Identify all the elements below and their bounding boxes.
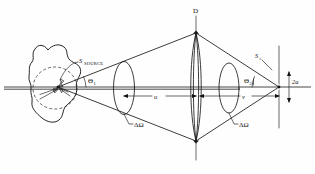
optics-diagram-canvas: S SOURCE Θ 1 ΔΩ (0, 0, 315, 174)
image-size-arrowhead-bottom (287, 98, 291, 103)
solid-angle-right-label: ΔΩ (239, 121, 249, 129)
image-distance-group: v (199, 93, 280, 100)
image-point-marker (278, 86, 281, 89)
solid-angle-left-group: ΔΩ (124, 114, 144, 129)
theta1-arc (84, 77, 87, 88)
detector-plane-group (278, 46, 281, 128)
source-label-subscript: SOURCE (84, 61, 103, 66)
solid-angle-left-label: ΔΩ (134, 121, 144, 129)
image-distance-label: v (242, 93, 245, 100)
aperture-element-2-group (219, 63, 239, 113)
aperture-element-1 (114, 62, 135, 115)
source-label-group: S SOURCE (60, 57, 103, 84)
source-object-outline (29, 45, 81, 122)
theta1-label-subscript: 1 (94, 81, 96, 86)
theta2-label-main: Θ (244, 77, 249, 85)
source-object-group (29, 45, 81, 122)
image-size-label: 2a (292, 78, 298, 85)
optical-axis-group (4, 87, 311, 89)
image-label-main: S (255, 52, 259, 59)
image-label-group: S i (255, 52, 272, 70)
source-arrowhead-lower-left-2 (53, 89, 57, 92)
aperture-D-label: D (193, 7, 198, 15)
source-arrow-lower-left-2 (40, 90, 57, 99)
theta2-label-subscript: 2 (250, 81, 252, 86)
image-label-leader (262, 60, 272, 70)
source-label-leader (60, 62, 78, 80)
object-distance-arrowhead-right (192, 94, 197, 98)
source-label-main: S (79, 57, 83, 64)
theta1-group: Θ 1 (84, 77, 96, 88)
aperture-element-2 (219, 63, 239, 113)
ray-converging-lower (196, 87, 279, 141)
object-distance-arrowhead-left (123, 94, 128, 98)
image-label-subscript: i (260, 56, 262, 61)
optical-diagram-figure: S SOURCE Θ 1 ΔΩ (0, 0, 315, 174)
aperture-element-1-group (114, 62, 135, 115)
theta2-group: Θ 2 (244, 77, 255, 88)
object-distance-label: u (154, 93, 157, 100)
ray-converging-upper (196, 33, 279, 87)
image-size-arrowhead-top (287, 71, 291, 76)
solid-angle-right-group: ΔΩ (229, 113, 249, 129)
theta1-label-main: Θ (88, 77, 93, 85)
